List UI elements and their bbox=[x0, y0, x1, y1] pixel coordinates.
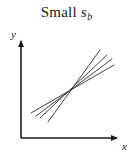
axes-group bbox=[21, 41, 117, 138]
figure-container: Smallsb y x bbox=[0, 0, 133, 154]
x-axis-label: x bbox=[121, 140, 127, 152]
data-line-2 bbox=[40, 55, 107, 118]
data-line-4 bbox=[31, 65, 114, 113]
plot-area: y x bbox=[0, 0, 133, 154]
data-lines-group bbox=[31, 50, 114, 122]
y-axis-label: y bbox=[10, 28, 16, 40]
data-line-3 bbox=[36, 59, 112, 116]
